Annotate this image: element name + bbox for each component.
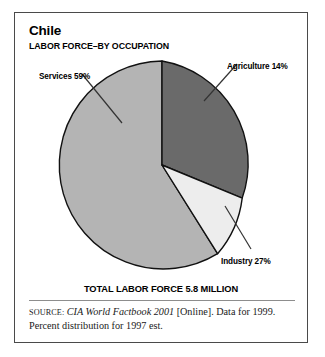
- slice-label-services: Services 59%: [39, 71, 90, 81]
- chart-figure-frame: Chile LABOR FORCE–BY OCCUPATION Services…: [14, 12, 308, 343]
- total-labor-force-caption: TOTAL LABOR FORCE 5.8 MILLION: [15, 284, 307, 294]
- source-kicker: SOURCE:: [29, 308, 64, 317]
- source-note: SOURCE: CIA World Factbook 2001 [Online]…: [29, 305, 297, 332]
- pie-chart: Services 59% Agriculture 14% Industry 27…: [15, 13, 309, 344]
- slice-label-industry: Industry 27%: [221, 256, 271, 266]
- slice-label-agriculture: Agriculture 14%: [227, 61, 288, 71]
- source-publication-title: CIA World Factbook 2001: [67, 306, 174, 317]
- footer-divider: [29, 300, 295, 301]
